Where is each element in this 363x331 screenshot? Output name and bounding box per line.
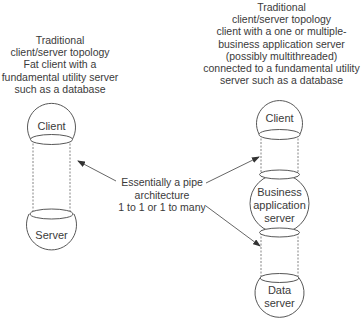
pipe-architecture-annotation: Essentially a pipe architecture 1 to 1 o… <box>112 176 212 214</box>
right-client-label: Client <box>265 112 293 124</box>
business-server-label-line: Business <box>257 186 302 198</box>
left-pipe <box>33 140 70 213</box>
annotation-line: architecture <box>112 189 212 202</box>
business-server-label-line: application <box>253 199 306 211</box>
business-server-label-line: server <box>264 212 295 224</box>
data-server-label-line: Data <box>268 284 292 296</box>
annotation-line: 1 to 1 or 1 to many <box>112 201 212 214</box>
topology-diagram: Client Server Client Business applicatio… <box>0 0 363 331</box>
left-client-label: Client <box>37 120 65 132</box>
arrow-to-right-upper-pipe <box>206 157 259 183</box>
data-server-label-line: server <box>264 297 295 309</box>
arrow-to-left-pipe <box>78 161 116 181</box>
left-server-label: Server <box>35 229 68 241</box>
annotation-line: Essentially a pipe <box>112 176 212 189</box>
